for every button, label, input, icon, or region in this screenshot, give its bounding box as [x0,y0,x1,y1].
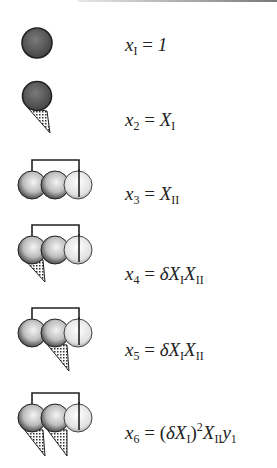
formula-x5: x5 = δXIXII [125,340,204,362]
single-dark-sphere-icon [18,24,58,64]
top-rule [78,0,277,2]
formula-x6: x6 = (δXI)2XIIy1 [125,421,237,445]
three-sphere-chain-cone-second-icon [15,303,100,375]
three-sphere-chain-icon [15,155,100,205]
formula-x4: x4 = δXIXII [125,264,204,286]
formula-x1: xI = 1 [125,35,167,57]
formula-x2: x2 = XI [125,110,175,132]
formula-x3: x3 = XII [125,184,179,206]
three-sphere-chain-cone-first-icon [15,220,100,285]
dark-sphere-with-cone-icon [18,78,58,138]
three-sphere-chain-two-cones-icon [15,388,100,460]
